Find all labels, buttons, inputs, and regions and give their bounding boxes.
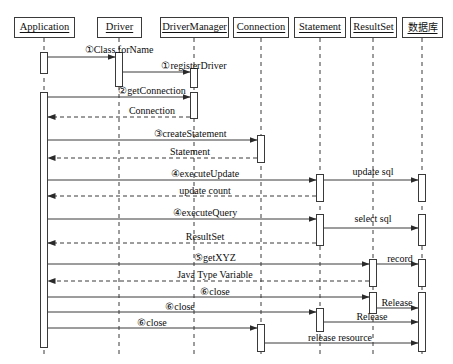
activation-bar-statement [316, 214, 324, 246]
activation-bar-connection [257, 324, 265, 352]
activation-bar-drivermanager [190, 68, 198, 88]
activation-bar-drivermanager [190, 92, 198, 119]
activation-bar-database [418, 174, 426, 202]
message-label-m8: update sql [353, 167, 394, 177]
participant-box-database[interactable]: 数据库 [402, 17, 443, 38]
participant-label-application: Application [20, 22, 70, 33]
participant-label-connection: Connection [237, 22, 285, 33]
message-label-m14: record [387, 254, 413, 264]
lifeline-dashed-lines [44, 38, 422, 356]
message-label-m17: Release [381, 298, 412, 308]
uml-sequence-diagram: ApplicationDriverDriverManagerConnection… [0, 0, 453, 364]
message-label-m20: ⑥close [137, 318, 167, 328]
message-label-m7: ④executeUpdate [171, 169, 239, 179]
activation-bar-application [40, 52, 48, 74]
message-label-m13: ⑤getXYZ [194, 253, 236, 263]
participant-box-connection[interactable]: Connection [233, 17, 289, 38]
message-label-m4: Connection [129, 106, 175, 116]
message-label-m6: Statement [170, 147, 210, 157]
activation-bar-database [418, 214, 426, 246]
activation-bar-database [418, 259, 426, 287]
activation-bar-application [40, 92, 48, 348]
participant-box-application[interactable]: Application [14, 17, 75, 38]
activation-bar-resultset [369, 259, 377, 287]
participant-label-statement: Statement [299, 22, 341, 33]
participant-box-resultset[interactable]: ResultSet [350, 17, 397, 38]
message-label-m21: release resource [308, 333, 372, 343]
message-label-m9: update count [179, 186, 230, 196]
message-label-m12: ResultSet [186, 232, 224, 242]
activation-bar-connection [257, 135, 265, 163]
activation-bar-database [418, 292, 426, 352]
sequence-diagram-canvas [0, 0, 453, 364]
participant-label-database: 数据库 [408, 23, 438, 33]
participant-label-resultset: ResultSet [353, 22, 393, 33]
participant-label-driver: Driver [106, 22, 133, 33]
participant-box-statement[interactable]: Statement [294, 17, 346, 38]
activation-bar-statement [316, 174, 324, 202]
message-label-m5: ③createStatement [154, 129, 227, 139]
participant-box-driver[interactable]: Driver [97, 17, 142, 38]
message-label-m19: Release [356, 312, 387, 322]
message-label-m10: ④executeQuery [173, 208, 238, 218]
message-label-m2: ①registerDriver [161, 61, 226, 71]
message-label-m1: ①Class.forName [85, 45, 154, 55]
message-label-m16: ⑥close [200, 287, 230, 297]
message-label-m11: select sql [355, 214, 392, 224]
activation-bar-statement [316, 308, 324, 332]
activation-bar-driver [115, 52, 123, 87]
message-label-m18: ⑥close [165, 302, 195, 312]
message-label-m15: Java Type Variable [177, 270, 253, 280]
message-label-m3: ②getConnection [118, 86, 185, 96]
message-arrow-lines [48, 57, 418, 343]
participant-box-drivermanager[interactable]: DriverManager [160, 17, 229, 38]
participant-label-drivermanager: DriverManager [162, 22, 227, 33]
